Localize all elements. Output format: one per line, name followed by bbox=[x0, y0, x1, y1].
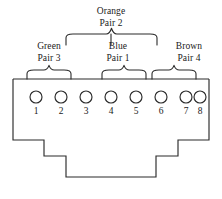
pin-circle-2 bbox=[55, 91, 67, 103]
pin-number-6: 6 bbox=[159, 106, 164, 116]
pair-label-blue-pair-1: Blue Pair 1 bbox=[92, 41, 144, 64]
pin-circle-5 bbox=[130, 91, 142, 103]
pair-label-orange-pair-2: Orange Pair 2 bbox=[80, 6, 142, 29]
pin-circle-6 bbox=[155, 91, 167, 103]
rj45-pinout-diagram: 12345678 Green Pair 3 Orange Pair 2 Blue… bbox=[0, 0, 222, 199]
pair-number-text: Pair 1 bbox=[92, 53, 144, 65]
pair-number-text: Pair 2 bbox=[80, 18, 142, 30]
pin-circle-4 bbox=[105, 91, 117, 103]
brace-green-pair-3 bbox=[27, 65, 71, 79]
pin-number-3: 3 bbox=[84, 106, 89, 116]
pin-number-7: 7 bbox=[184, 106, 189, 116]
pair-color-name: Orange bbox=[80, 6, 142, 18]
pair-color-name: Green bbox=[18, 41, 80, 53]
pair-label-green-pair-3: Green Pair 3 bbox=[18, 41, 80, 64]
pin-number-1: 1 bbox=[34, 106, 39, 116]
connector-drawing: 12345678 bbox=[0, 0, 222, 199]
brace-blue-pair-1 bbox=[102, 65, 146, 79]
pair-number-text: Pair 4 bbox=[158, 53, 220, 65]
pin-number-2: 2 bbox=[59, 106, 64, 116]
pair-label-brown-pair-4: Brown Pair 4 bbox=[158, 41, 220, 64]
pin-circle-1 bbox=[30, 91, 42, 103]
pin-circle-8 bbox=[194, 91, 206, 103]
pin-number-5: 5 bbox=[134, 106, 139, 116]
pair-color-name: Brown bbox=[158, 41, 220, 53]
pair-number-text: Pair 3 bbox=[18, 53, 80, 65]
pin-circle-3 bbox=[80, 91, 92, 103]
pin-number-8: 8 bbox=[198, 106, 203, 116]
pin-group: 12345678 bbox=[30, 91, 206, 116]
brace-brown-pair-4 bbox=[152, 65, 196, 79]
pair-color-name: Blue bbox=[92, 41, 144, 53]
pin-number-4: 4 bbox=[109, 106, 114, 116]
pin-circle-7 bbox=[180, 91, 192, 103]
